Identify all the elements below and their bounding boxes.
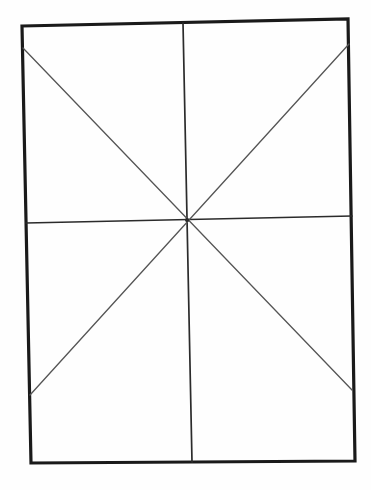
paper-background	[0, 0, 371, 490]
rectangle-diagonals-diagram	[0, 0, 371, 490]
figure-canvas: Hand-drawn rectangle divided by diagonal…	[0, 0, 371, 490]
center-intersection-point	[185, 218, 189, 222]
